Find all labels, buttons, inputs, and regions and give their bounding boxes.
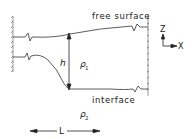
- rho1-label: ρ 1: [80, 59, 89, 71]
- right-wall: [147, 14, 149, 96]
- length-arrow: [30, 129, 100, 132]
- svg-text:2: 2: [85, 115, 89, 121]
- coordinate-axes: [161, 34, 177, 48]
- height-label: h: [60, 58, 66, 68]
- z-axis-label: Z: [160, 25, 166, 34]
- height-arrow: [67, 33, 71, 90]
- length-label: L: [59, 126, 64, 136]
- interface-label: interface: [92, 95, 135, 105]
- svg-text:1: 1: [85, 65, 89, 71]
- x-axis-label: X: [178, 42, 184, 51]
- free-surface-curve: [13, 24, 148, 41]
- left-wall: [11, 16, 13, 72]
- free-surface-label: free surface: [92, 11, 150, 21]
- rho2-label: ρ 2: [80, 109, 89, 121]
- fluid-layer-diagram: free surface interface h ρ 1 ρ 2 L Z X: [0, 0, 195, 139]
